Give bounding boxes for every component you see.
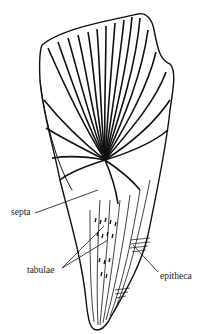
tabulae-leader-2 xyxy=(62,240,108,268)
tabulae-label: tabulae xyxy=(27,266,54,276)
coral-illustration xyxy=(0,0,204,334)
septa-leader xyxy=(35,190,98,213)
epitheca-label: epitheca xyxy=(160,272,192,282)
septa-label: septa xyxy=(11,208,31,218)
